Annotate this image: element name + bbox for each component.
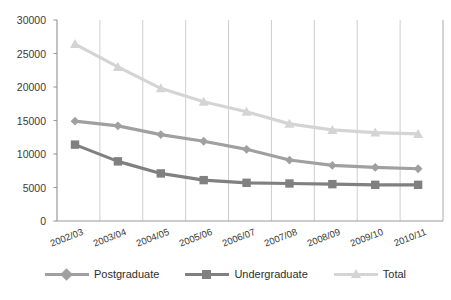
chart-legend: Postgraduate Undergraduate Total bbox=[0, 268, 451, 280]
legend-item-undergraduate[interactable]: Undergraduate bbox=[185, 268, 307, 280]
series-line bbox=[75, 44, 418, 134]
diamond-marker-icon bbox=[156, 130, 165, 139]
square-marker-icon bbox=[242, 179, 250, 187]
square-marker-icon bbox=[157, 169, 165, 177]
diamond-marker-icon bbox=[285, 156, 294, 165]
triangle-marker-icon bbox=[70, 39, 80, 48]
diamond-marker-icon bbox=[114, 121, 123, 130]
series-total bbox=[70, 39, 423, 138]
line-chart: 050001000015000200002500030000 2002/0320… bbox=[0, 0, 451, 300]
plot-area bbox=[0, 0, 451, 300]
diamond-marker-icon bbox=[371, 163, 380, 172]
square-marker-icon bbox=[114, 157, 122, 165]
square-marker-icon bbox=[199, 176, 207, 184]
square-marker-icon bbox=[185, 268, 229, 280]
legend-label-undergraduate: Undergraduate bbox=[234, 269, 307, 280]
diamond-marker-icon bbox=[242, 145, 251, 154]
legend-item-postgraduate[interactable]: Postgraduate bbox=[45, 268, 159, 280]
square-marker-icon bbox=[328, 180, 336, 188]
diamond-marker-icon bbox=[45, 268, 89, 280]
legend-item-total[interactable]: Total bbox=[334, 268, 406, 280]
series-postgraduate bbox=[71, 117, 423, 173]
legend-label-postgraduate: Postgraduate bbox=[94, 269, 159, 280]
diamond-marker-icon bbox=[414, 164, 423, 173]
diamond-marker-icon bbox=[328, 161, 337, 170]
square-marker-icon bbox=[285, 179, 293, 187]
diamond-marker-icon bbox=[199, 137, 208, 146]
square-marker-icon bbox=[71, 140, 79, 148]
diamond-marker-icon bbox=[71, 117, 80, 126]
square-marker-icon bbox=[371, 181, 379, 189]
legend-label-total: Total bbox=[383, 269, 406, 280]
triangle-marker-icon bbox=[334, 268, 378, 280]
square-marker-icon bbox=[414, 181, 422, 189]
